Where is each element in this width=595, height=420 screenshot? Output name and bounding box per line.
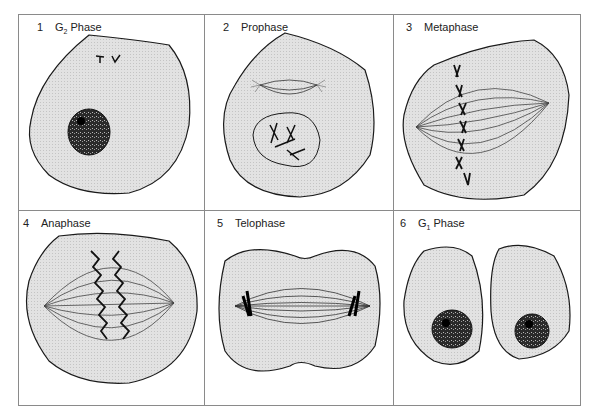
figure-grid: 1G2 Phase 2Prophase 3Metaphase [18,14,581,406]
panel-telophase: 5Telophase [205,211,393,407]
panel-anaphase: 4Anaphase [19,211,204,407]
panel-g2-phase: 1G2 Phase [19,15,204,210]
metaphase-cell-drawing [394,15,582,210]
panel-prophase: 2Prophase [205,15,393,210]
g1-cells-drawing [394,211,582,407]
telophase-cell-drawing [205,211,393,407]
g2-cell-drawing [19,15,204,210]
prophase-cell-drawing [205,15,393,210]
panel-g1-phase: 6G1 Phase [394,211,582,407]
anaphase-cell-drawing [19,211,204,407]
panel-metaphase: 3Metaphase [394,15,582,210]
